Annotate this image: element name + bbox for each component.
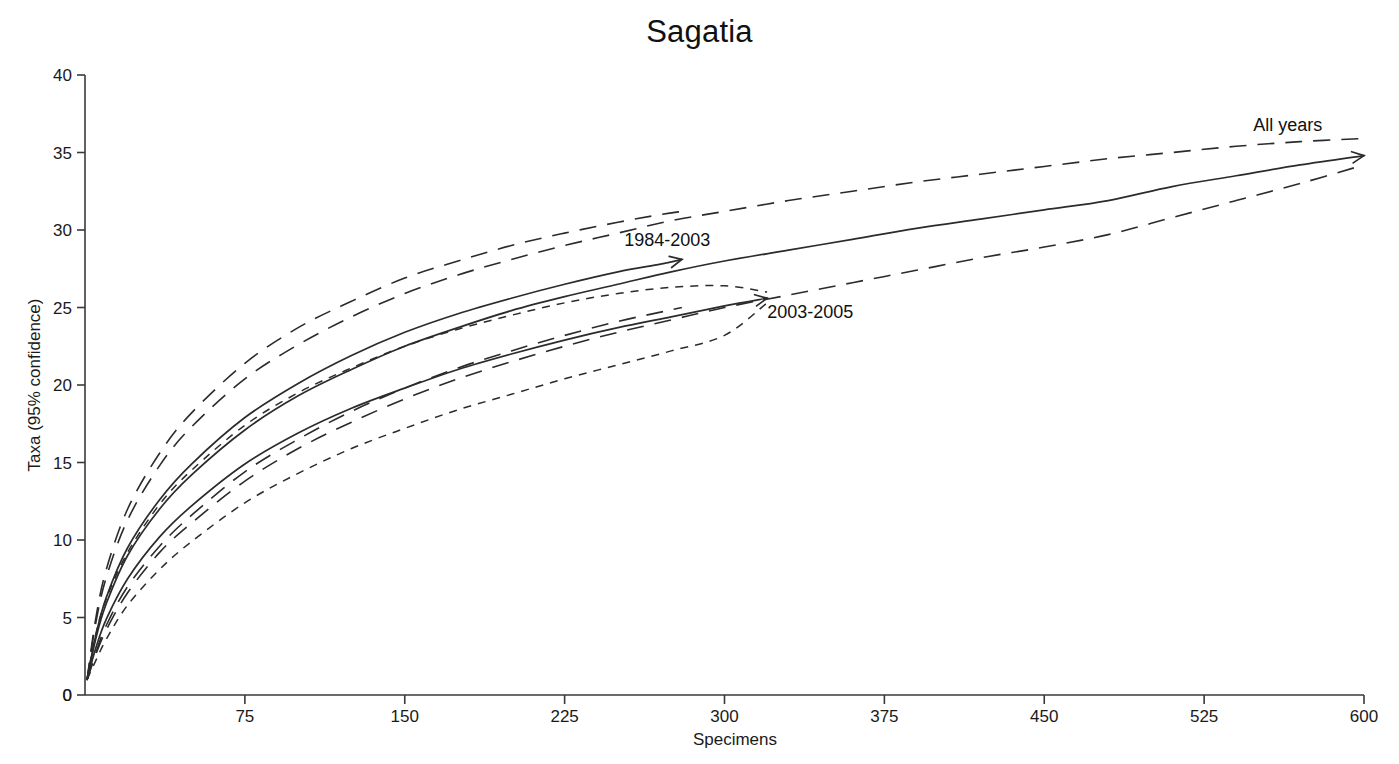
- x-tick-label: 150: [391, 707, 419, 726]
- x-tick-label: 75: [235, 707, 254, 726]
- y-tick-label: 30: [53, 221, 72, 240]
- ci-lower-2003-2005: [87, 303, 767, 680]
- axes: 0510152025303540075150225300375450525600: [53, 66, 1378, 726]
- ci-lower-all-years: [87, 165, 1364, 680]
- y-tick-label: 15: [53, 454, 72, 473]
- curve-label-1984-2003: 1984-2003: [624, 230, 710, 250]
- y-axis-title: Taxa (95% confidence): [25, 299, 44, 472]
- y-tick-label: 20: [53, 376, 72, 395]
- ci-upper-all-years: [87, 139, 1364, 680]
- x-tick-label: 300: [710, 707, 738, 726]
- curve-label-all-years: All years: [1253, 115, 1322, 135]
- x-tick-label: 450: [1030, 707, 1058, 726]
- y-tick-label: 5: [63, 609, 72, 628]
- x-tick-label: 375: [870, 707, 898, 726]
- mean-curve-2003-2005: [87, 298, 767, 679]
- curve-label-2003-2005: 2003-2005: [767, 302, 853, 322]
- mean-curve-all-years: [87, 156, 1364, 680]
- axis-titles: SpecimensTaxa (95% confidence): [25, 299, 777, 749]
- y-tick-label: 40: [53, 66, 72, 85]
- ci-upper-2003-2005: [87, 286, 767, 680]
- x-tick-label: 600: [1350, 707, 1378, 726]
- ci-upper-1984-2003: [87, 211, 682, 679]
- ci-lower-1984-2003: [87, 308, 682, 680]
- x-tick-label: 525: [1190, 707, 1218, 726]
- chart-plot-area: 0510152025303540075150225300375450525600…: [0, 0, 1399, 764]
- chart-figure: Sagatia 05101520253035400751502253003754…: [0, 0, 1399, 764]
- y-tick-label: 10: [53, 531, 72, 550]
- mean-curve-1984-2003: [87, 259, 682, 679]
- x-tick-label: 225: [550, 707, 578, 726]
- curve-annotations: All years1984-20032003-2005: [624, 115, 1322, 323]
- x-tick-label: 0: [63, 686, 72, 705]
- y-tick-label: 25: [53, 299, 72, 318]
- data-curves: [87, 139, 1364, 680]
- x-axis-title: Specimens: [693, 730, 777, 749]
- y-tick-label: 35: [53, 144, 72, 163]
